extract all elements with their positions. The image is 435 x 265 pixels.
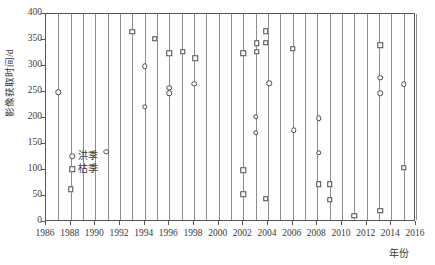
x-tick — [218, 221, 219, 225]
gridline — [219, 14, 220, 220]
data-point — [316, 181, 322, 187]
x-axis-title: 年份 — [389, 248, 409, 259]
data-point — [254, 40, 260, 46]
x-tick — [193, 221, 194, 225]
x-tick — [119, 221, 120, 225]
data-point — [180, 49, 186, 55]
x-tick-label: 2012 — [356, 228, 375, 238]
data-point — [401, 81, 407, 87]
gridline — [330, 14, 331, 220]
data-point — [352, 213, 358, 219]
data-point — [167, 50, 173, 56]
data-point — [327, 181, 333, 187]
x-tick — [45, 221, 46, 225]
gridline — [83, 14, 84, 220]
square-marker-icon — [66, 162, 78, 175]
gridline — [58, 14, 59, 220]
gridline — [132, 14, 133, 220]
x-tick — [390, 221, 391, 225]
y-tick-label: 250 — [28, 86, 42, 96]
gridline — [293, 14, 294, 220]
x-tick-label: 2010 — [332, 228, 351, 238]
data-point — [401, 165, 407, 171]
x-tick — [316, 221, 317, 225]
gridline — [391, 14, 392, 220]
data-point — [290, 46, 296, 52]
y-tick-label: 0 — [37, 216, 42, 226]
legend-label-dry: 枯季 — [78, 163, 98, 174]
x-tick — [415, 221, 416, 225]
x-tick-label: 2000 — [208, 228, 227, 238]
data-point — [241, 167, 247, 173]
x-tick-label: 2006 — [282, 228, 301, 238]
data-point — [191, 81, 197, 87]
data-point — [253, 114, 259, 120]
plot-area: 洪季 枯季 — [45, 13, 415, 221]
data-point — [241, 50, 247, 56]
gridline — [416, 14, 417, 220]
y-tick-label: 400 — [28, 8, 42, 18]
x-tick-label: 1988 — [60, 228, 79, 238]
y-tick-label: 150 — [28, 138, 42, 148]
data-point — [263, 28, 269, 34]
gridline — [145, 14, 146, 220]
data-point — [377, 90, 383, 96]
y-tick-label: 350 — [28, 34, 42, 44]
data-point — [130, 29, 136, 35]
y-tick-label: 200 — [28, 112, 42, 122]
data-point — [327, 197, 333, 203]
circle-marker-icon — [66, 149, 78, 162]
gridline — [182, 14, 183, 220]
gridline — [157, 14, 158, 220]
data-point — [142, 63, 148, 69]
x-tick-label: 2002 — [233, 228, 252, 238]
x-tick — [267, 221, 268, 225]
data-point — [263, 196, 269, 202]
legend-label-flood: 洪季 — [78, 150, 98, 161]
legend-item-flood: 洪季 — [66, 149, 128, 162]
x-tick-label: 1992 — [110, 228, 129, 238]
x-tick — [94, 221, 95, 225]
x-tick-label: 1996 — [159, 228, 178, 238]
data-point — [56, 89, 62, 95]
data-point — [316, 115, 322, 121]
data-point — [253, 130, 259, 136]
x-tick — [70, 221, 71, 225]
data-point — [142, 104, 148, 110]
gridline — [342, 14, 343, 220]
x-tick — [341, 221, 342, 225]
x-tick-label: 1994 — [134, 228, 153, 238]
data-point — [241, 192, 247, 198]
legend: 洪季 枯季 — [66, 149, 128, 175]
data-point — [377, 208, 383, 214]
gridline — [95, 14, 96, 220]
data-point — [291, 128, 297, 134]
x-tick — [168, 221, 169, 225]
y-tick-label: 300 — [28, 60, 42, 70]
x-tick — [242, 221, 243, 225]
data-point — [152, 36, 158, 42]
x-tick-label: 2004 — [258, 228, 277, 238]
x-tick — [144, 221, 145, 225]
gridline — [243, 14, 244, 220]
gridline — [404, 14, 405, 220]
x-tick-label: 2016 — [406, 228, 425, 238]
data-point — [254, 49, 260, 55]
data-point — [316, 150, 322, 156]
gridline — [367, 14, 368, 220]
legend-item-dry: 枯季 — [66, 162, 128, 175]
gridline — [194, 14, 195, 220]
data-point — [192, 55, 198, 61]
data-point — [263, 40, 269, 46]
x-tick-label: 2008 — [307, 228, 326, 238]
data-point — [266, 80, 272, 86]
gridline — [280, 14, 281, 220]
data-point — [68, 186, 74, 192]
gridline — [169, 14, 170, 220]
gridline — [206, 14, 207, 220]
gridline — [120, 14, 121, 220]
x-tick-label: 1998 — [184, 228, 203, 238]
y-tick-label: 100 — [28, 164, 42, 174]
x-tick — [366, 221, 367, 225]
data-point — [167, 90, 173, 96]
